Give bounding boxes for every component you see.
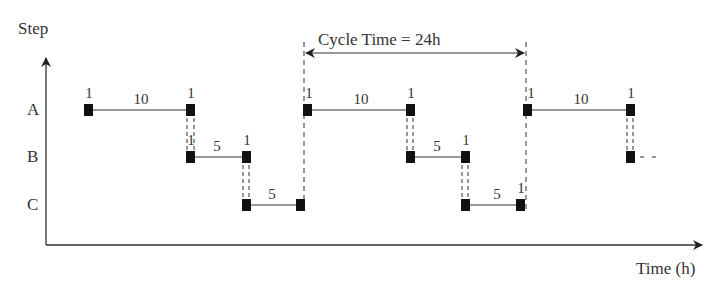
row-label-a: A bbox=[27, 101, 39, 118]
row-label-b: B bbox=[27, 148, 38, 165]
setup-label: 1 bbox=[305, 86, 313, 101]
duration-label: 10 bbox=[574, 92, 589, 107]
setup-label: 1 bbox=[187, 133, 195, 148]
y-axis-label: Step bbox=[18, 20, 48, 37]
duration-label: 5 bbox=[268, 187, 276, 202]
x-axis-label: Time (h) bbox=[636, 260, 695, 277]
duration-label: 5 bbox=[213, 139, 221, 154]
transition-dashes bbox=[187, 118, 658, 198]
cycle-time-label: Cycle Time = 24h bbox=[318, 31, 440, 48]
setup-label: 1 bbox=[527, 86, 535, 101]
setup-label: 1 bbox=[627, 86, 635, 101]
duration-label: 5 bbox=[433, 139, 441, 154]
setup-label: 1 bbox=[517, 181, 525, 196]
duration-label: 5 bbox=[493, 187, 501, 202]
duration-label: 10 bbox=[134, 92, 149, 107]
setup-blocks bbox=[84, 104, 635, 211]
setup-label: 1 bbox=[462, 133, 470, 148]
setup-label: 1 bbox=[243, 133, 251, 148]
row-label-c: C bbox=[27, 196, 38, 213]
setup-label: 1 bbox=[187, 86, 195, 101]
setup-label: 1 bbox=[407, 86, 415, 101]
setup-label: 1 bbox=[85, 86, 93, 101]
duration-label: 10 bbox=[354, 92, 369, 107]
segments bbox=[88, 110, 630, 205]
